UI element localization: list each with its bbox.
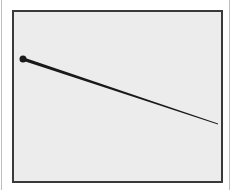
- pin-head-icon: [20, 56, 27, 63]
- pin-illustration: [0, 0, 231, 190]
- pin-shaft: [23, 57, 218, 124]
